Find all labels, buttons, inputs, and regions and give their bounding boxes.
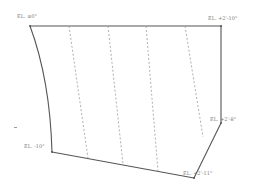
corner-marker-bottom-left	[51, 151, 53, 153]
elevation-label-top-right: EL. +2'-10"	[208, 16, 237, 21]
elevation-label-bottom-right: EL. +2'-11"	[183, 171, 212, 176]
dashed-line-3	[146, 26, 158, 171]
dashed-line-4	[185, 26, 203, 137]
stray-mark	[14, 127, 17, 128]
corner-marker-top-left	[29, 25, 31, 27]
outline-straight-edges	[30, 26, 221, 178]
dashed-line-1	[69, 26, 88, 158]
corner-marker-right-mid	[220, 122, 222, 124]
elevation-label-top-left: EL. ±0"	[17, 14, 37, 19]
outline-curved-left-edge	[30, 26, 52, 152]
elevation-label-bottom-left: EL. -10"	[24, 144, 45, 149]
elevation-label-right-mid: EL. +2'-8"	[210, 117, 236, 122]
corner-marker-top-right	[220, 25, 222, 27]
dashed-line-2	[108, 26, 123, 164]
elevation-diagram	[0, 0, 256, 190]
corner-marker-bottom-right	[193, 177, 195, 179]
